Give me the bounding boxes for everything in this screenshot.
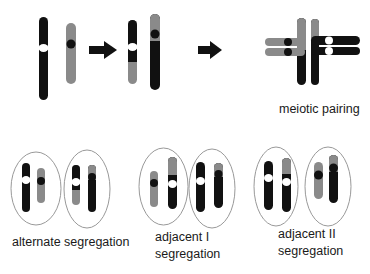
adjacent-2-segregation-cell-2 [305, 147, 351, 226]
normal-chromosome-black [39, 17, 49, 100]
adjacent-1-label-line1: adjacent I [155, 229, 209, 246]
normal-chromosome-gray [66, 23, 76, 84]
alternate-segregation-cell-2 [64, 150, 110, 228]
arrow-right-icon [198, 41, 222, 59]
adjacent-1-segregation-cell-1 [139, 148, 188, 225]
adjacent-2-label-line2: segregation [278, 243, 343, 260]
adjacent-1-label-line2: segregation [155, 246, 220, 263]
adjacent-1-segregation-cell-2 [189, 149, 235, 228]
adjacent-2-segregation-cell-1 [254, 147, 298, 226]
alternate-segregation-cell-1 [11, 152, 61, 225]
meiotic-pairing-label: meiotic pairing [279, 101, 360, 118]
adjacent-2-label-line1: adjacent II [278, 226, 336, 243]
meiotic-pairing-quadrivalent [265, 18, 360, 85]
translocated-chromosome-1 [128, 20, 138, 84]
alternate-segregation-label: alternate segregation [12, 234, 129, 251]
translocated-chromosome-2 [150, 14, 160, 90]
arrow-right-icon [89, 41, 117, 59]
